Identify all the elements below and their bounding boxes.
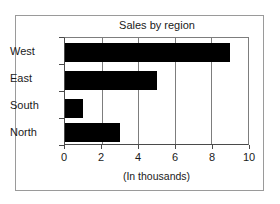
y-axis-labels: West East South North: [10, 0, 58, 204]
ytick-top: [59, 37, 64, 38]
xtick-4: [138, 145, 139, 149]
ytick-east-south: [59, 91, 64, 92]
xtick-label-10: 10: [236, 151, 262, 164]
ytick-south-north: [59, 118, 64, 119]
ylabel-south: South: [10, 99, 58, 111]
x-axis-title: (In thousands): [64, 170, 249, 183]
bar-south: [65, 99, 83, 118]
xtick-label-8: 8: [199, 151, 225, 164]
xtick-label-4: 4: [125, 151, 151, 164]
ylabel-east: East: [10, 72, 58, 84]
xtick-label-2: 2: [88, 151, 114, 164]
xtick-label-6: 6: [162, 151, 188, 164]
xtick-6: [175, 145, 176, 149]
bar-chart-figure: Sales by region West East South North 0 …: [0, 0, 280, 204]
xtick-8: [212, 145, 213, 149]
bar-east: [65, 71, 157, 90]
bar-north: [65, 123, 120, 142]
bar-west: [65, 43, 230, 62]
chart-title: Sales by region: [64, 18, 250, 32]
plot-area: [64, 37, 249, 145]
xtick-10: [249, 145, 250, 149]
xtick-label-0: 0: [51, 151, 77, 164]
ylabel-north: North: [10, 126, 58, 138]
xtick-0: [64, 145, 65, 149]
ytick-west-east: [59, 64, 64, 65]
ylabel-west: West: [10, 45, 58, 57]
xtick-2: [101, 145, 102, 149]
